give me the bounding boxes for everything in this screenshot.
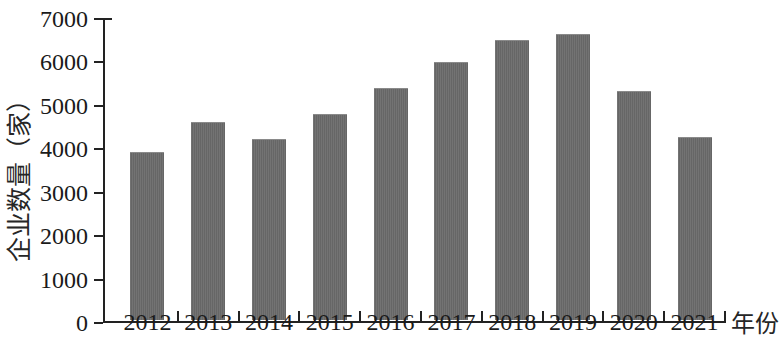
- x-tick-label: 2017: [421, 310, 482, 334]
- plot-area: 01000200030004000500060007000: [103, 18, 725, 322]
- y-axis-top-cap: [103, 18, 112, 20]
- y-axis-line: [103, 18, 105, 323]
- bar: [617, 91, 651, 320]
- y-tick-mark: 2000: [94, 235, 103, 237]
- bar: [313, 114, 347, 320]
- x-tick-label: 2014: [239, 310, 300, 334]
- x-axis-title: 年份: [731, 312, 779, 336]
- y-tick-label: 4000: [40, 137, 88, 161]
- y-tick-label: 5000: [40, 94, 88, 118]
- bar: [556, 34, 590, 320]
- bar: [374, 88, 408, 320]
- y-tick-label: 0: [76, 311, 88, 335]
- bar: [252, 139, 286, 320]
- x-tick-label: 2013: [178, 310, 239, 334]
- y-tick-label: 3000: [40, 181, 88, 205]
- y-tick-label: 2000: [40, 224, 88, 248]
- x-tick-label: 2015: [299, 310, 360, 334]
- x-tick-label: 2021: [664, 310, 725, 334]
- bar: [678, 137, 712, 320]
- x-tick-label: 2018: [482, 310, 543, 334]
- x-tick-label: 2019: [543, 310, 604, 334]
- x-tick-label: 2020: [603, 310, 664, 334]
- y-tick-mark: 0: [94, 322, 103, 324]
- x-tick-label: 2016: [360, 310, 421, 334]
- y-tick-mark: 5000: [94, 105, 103, 107]
- y-tick-mark: 4000: [94, 148, 103, 150]
- y-tick-mark: 1000: [94, 279, 103, 281]
- y-axis-title: 企业数量（家）: [0, 0, 34, 349]
- bar: [130, 152, 164, 320]
- bar: [434, 62, 468, 320]
- x-tick-label: 2012: [117, 310, 178, 334]
- y-tick-label: 7000: [40, 7, 88, 31]
- y-tick-label: 1000: [40, 268, 88, 292]
- bar: [191, 122, 225, 320]
- y-tick-mark: 7000: [94, 18, 103, 20]
- bar: [495, 40, 529, 320]
- y-tick-mark: 6000: [94, 61, 103, 63]
- y-tick-mark: 3000: [94, 192, 103, 194]
- y-tick-label: 6000: [40, 50, 88, 74]
